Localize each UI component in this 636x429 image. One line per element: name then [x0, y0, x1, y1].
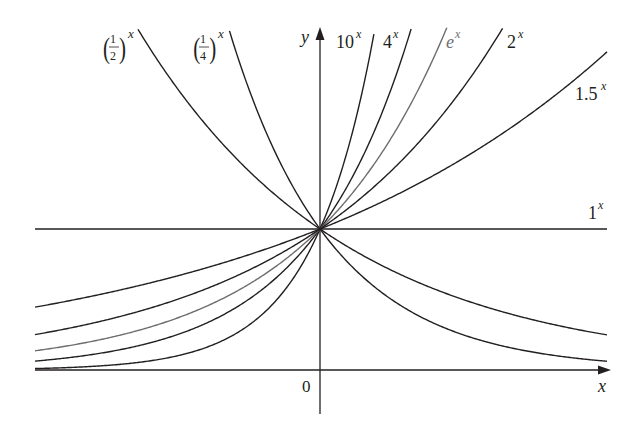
svg-text:10: 10 — [336, 32, 354, 52]
curve--1-4--x — [229, 31, 607, 361]
svg-text:): ) — [119, 31, 126, 65]
svg-text:x: x — [392, 27, 399, 41]
svg-text:(: ( — [103, 31, 110, 65]
svg-text:1: 1 — [200, 32, 206, 46]
svg-text:2: 2 — [110, 49, 116, 63]
svg-text:1: 1 — [110, 32, 116, 46]
svg-text:x: x — [517, 27, 524, 41]
label-10-pow-x: 10 x — [336, 27, 362, 52]
svg-text:x: x — [597, 198, 604, 212]
svg-text:): ) — [209, 31, 216, 65]
y-axis-arrow-icon — [316, 27, 325, 40]
label-4-pow-x: 4 x — [383, 27, 399, 52]
svg-text:4: 4 — [383, 32, 392, 52]
origin-label: 0 — [302, 377, 311, 396]
svg-text:x: x — [600, 79, 607, 93]
label-quarter-pow-x: ( 1 4 ) x — [193, 26, 224, 65]
curve-group — [35, 28, 607, 369]
svg-text:e: e — [446, 32, 454, 52]
curve--1-2--x — [138, 29, 607, 335]
svg-text:x: x — [217, 26, 224, 41]
svg-text:1: 1 — [588, 203, 597, 223]
svg-text:2: 2 — [507, 32, 516, 52]
curve-10-x — [35, 34, 374, 368]
y-axis-label: y — [299, 27, 309, 47]
svg-text:4: 4 — [200, 49, 206, 63]
curve-4-x — [35, 29, 411, 361]
svg-text:1.5: 1.5 — [575, 84, 598, 104]
label-2-pow-x: 2 x — [507, 27, 524, 52]
x-axis-label: x — [597, 376, 606, 396]
svg-text:x: x — [127, 26, 134, 41]
label-1-pow-x: 1 x — [588, 198, 604, 223]
curve-1.5-x — [35, 52, 607, 307]
svg-text:x: x — [355, 27, 362, 41]
label-1.5-pow-x: 1.5 x — [575, 79, 607, 104]
exponential-functions-chart: x y 0 ( 1 2 ) x ( 1 4 ) x 10 x 4 x e x 2… — [0, 0, 636, 429]
label-half-pow-x: ( 1 2 ) x — [103, 26, 134, 65]
curve-e-x — [35, 28, 447, 351]
x-axis-arrow-icon — [598, 366, 611, 375]
svg-text:x: x — [454, 27, 461, 41]
label-e-pow-x: e x — [446, 27, 461, 52]
